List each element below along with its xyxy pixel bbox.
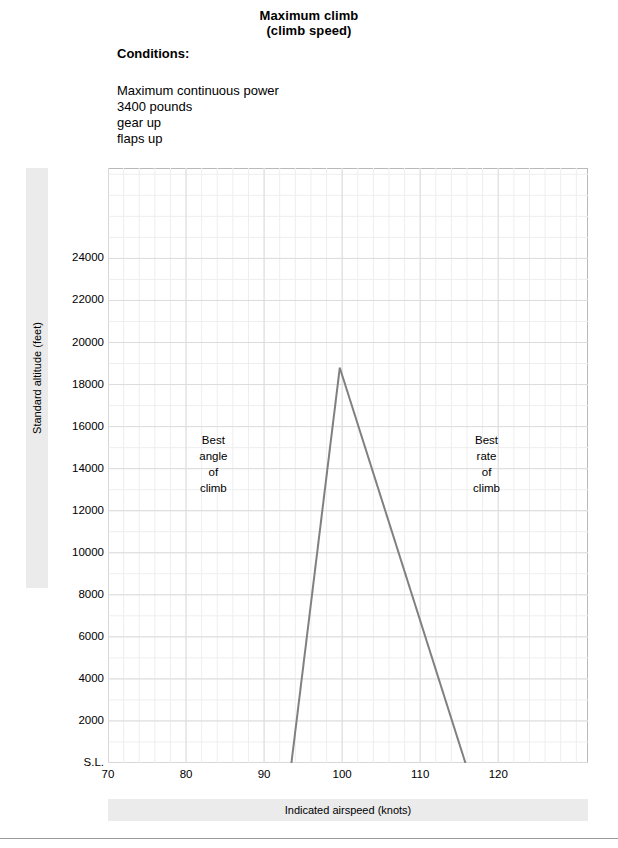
y-tick-label: 4000 [30, 673, 104, 685]
x-axis-title: Indicated airspeed (knots) [108, 799, 588, 821]
y-tick-label: 22000 [30, 295, 104, 307]
y-tick-label: 24000 [30, 253, 104, 265]
condition-item: 3400 pounds [117, 99, 279, 115]
y-tick-label: 20000 [30, 337, 104, 349]
annotation-line: rate [473, 448, 500, 464]
annotation-line: of [473, 464, 500, 480]
annotation-best-rate-of-climb: Bestrateofclimb [473, 432, 500, 496]
x-tick-label: 100 [333, 768, 352, 781]
chart-plot-area [108, 168, 588, 763]
y-tick-label: 16000 [30, 421, 104, 433]
x-axis-tick-labels: 708090100110120 [108, 768, 588, 786]
title-line-1: Maximum climb [260, 8, 359, 23]
conditions-list: Maximum continuous power 3400 pounds gea… [117, 83, 279, 147]
footer-divider [0, 838, 618, 839]
conditions-heading: Conditions: [117, 46, 189, 61]
title-line-2: (climb speed) [0, 23, 618, 38]
y-tick-label: 2000 [30, 715, 104, 727]
condition-item: flaps up [117, 131, 279, 147]
annotation-line: Best [473, 432, 500, 448]
page-title: Maximum climb (climb speed) [0, 8, 618, 38]
x-tick-label: 90 [258, 768, 271, 781]
condition-item: gear up [117, 115, 279, 131]
y-tick-label: 6000 [30, 631, 104, 643]
condition-item: Maximum continuous power [117, 83, 279, 99]
y-axis-tick-labels: S.L.200040006000800010000120001400016000… [26, 168, 104, 763]
annotation-line: climb [199, 480, 227, 496]
y-tick-label: 14000 [30, 463, 104, 475]
x-tick-label: 80 [180, 768, 193, 781]
annotation-line: climb [473, 480, 500, 496]
y-tick-label: 18000 [30, 379, 104, 391]
annotation-best-angle-of-climb: Bestangleofclimb [199, 432, 227, 496]
y-tick-label: S.L. [30, 757, 104, 769]
y-tick-label: 10000 [30, 547, 104, 559]
y-tick-label: 12000 [30, 505, 104, 517]
x-tick-label: 70 [102, 768, 115, 781]
y-tick-label: 8000 [30, 589, 104, 601]
annotation-line: angle [199, 448, 227, 464]
annotation-line: Best [199, 432, 227, 448]
x-tick-label: 120 [489, 768, 508, 781]
annotation-line: of [199, 464, 227, 480]
x-tick-label: 110 [411, 768, 429, 781]
climb-speed-line-chart [108, 168, 588, 763]
x-axis-title-text: Indicated airspeed (knots) [285, 804, 412, 816]
